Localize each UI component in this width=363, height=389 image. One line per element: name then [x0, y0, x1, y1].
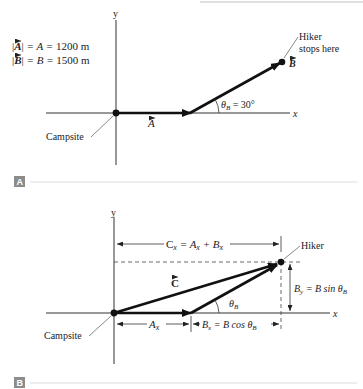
angle-arc	[215, 300, 219, 313]
hiker-point	[278, 259, 285, 266]
vector-c-arrow	[114, 264, 277, 313]
hiker-label-line2: stops here	[299, 43, 340, 54]
angle-label: θB	[229, 298, 239, 311]
campsite-label: Campsite	[44, 330, 82, 341]
panel-a-badge: A	[14, 176, 25, 187]
vector-a-label: A	[147, 117, 155, 129]
hiker-leader	[284, 37, 298, 58]
vector-addition-diagram: y x |A| = A = 1200 m |B| = B = 1500 m A …	[0, 0, 363, 389]
bx-label: Bx = B cos θB	[202, 319, 257, 332]
campsite-leader	[89, 316, 111, 336]
campsite-point	[113, 110, 120, 117]
y-axis-label: y	[111, 207, 116, 218]
hiker-label: Hiker	[301, 240, 324, 251]
magnitude-b: |B| = B = 1500 m	[12, 54, 90, 66]
svg-text:A: A	[17, 177, 24, 187]
panel-a: y x |A| = A = 1200 m |B| = B = 1500 m A …	[12, 8, 357, 187]
vector-c-label: C	[171, 277, 179, 289]
cx-label: Cx = Ax + Bx	[166, 238, 224, 252]
ax-label: Ax	[148, 318, 160, 332]
magnitude-a: |A| = A = 1200 m	[12, 40, 90, 52]
angle-label: θB = 30°	[221, 99, 255, 112]
angle-arc	[215, 99, 219, 113]
magnitude-legend: |A| = A = 1200 m |B| = B = 1500 m	[12, 40, 90, 66]
campsite-label: Campsite	[46, 131, 84, 142]
y-axis-label: y	[113, 8, 118, 19]
hiker-label-line1: Hiker	[299, 31, 322, 42]
x-axis-label: x	[332, 308, 338, 319]
hiker-leader	[284, 246, 300, 259]
svg-text:B: B	[17, 378, 24, 388]
hiker-point	[279, 59, 286, 66]
campsite-point	[111, 310, 118, 317]
x-axis-label: x	[292, 108, 298, 119]
panel-b: y x Cx = Ax + Bx C Hiker θB By =	[14, 207, 357, 388]
panel-b-badge: B	[14, 377, 25, 388]
by-label: By = B sin θB	[294, 283, 348, 296]
campsite-leader	[91, 116, 113, 137]
vector-b-label: B	[288, 58, 296, 69]
